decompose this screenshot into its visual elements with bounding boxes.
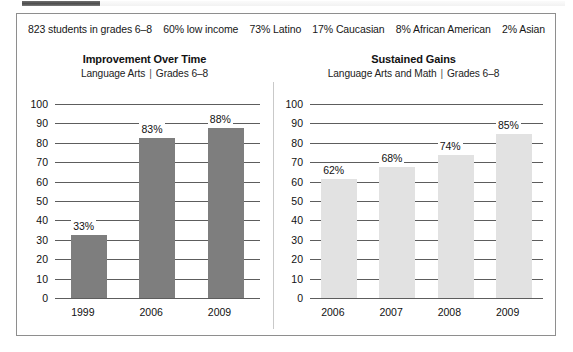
y-axis-label-right: 40 bbox=[291, 214, 303, 226]
demographic-low-income: 60% low income bbox=[163, 23, 238, 35]
y-axis-label-right: 10 bbox=[291, 273, 303, 285]
bar-group-right[interactable]: 62%2006 bbox=[310, 105, 368, 299]
bar-value-label: 68% bbox=[379, 152, 404, 164]
chart-title-right: Sustained Gains bbox=[272, 53, 555, 65]
x-axis-label-right: 2009 bbox=[496, 306, 519, 318]
demographic-enrollment: 823 students in grades 6–8 bbox=[28, 23, 152, 35]
chart-panel-sustained-gains: Sustained Gains Language Arts and Math|G… bbox=[272, 44, 555, 335]
demographic-caucasian: 17% Caucasian bbox=[312, 23, 384, 35]
bar-value-label: 83% bbox=[139, 123, 164, 135]
bar-left-2009[interactable]: 88%2009 bbox=[208, 128, 244, 299]
bar-value-label: 85% bbox=[496, 119, 521, 131]
plot-inner-left: 1009080706050403020100 33%199983%200688%… bbox=[55, 105, 260, 299]
x-axis-label-right: 2006 bbox=[321, 306, 344, 318]
bar-group-right[interactable]: 74%2008 bbox=[427, 105, 485, 299]
bar-right-2009[interactable]: 85%2009 bbox=[496, 134, 532, 299]
y-axis-label-right: 30 bbox=[291, 234, 303, 246]
bars-right: 62%200668%200774%200885%2009 bbox=[310, 105, 543, 299]
bar-group-left[interactable]: 83%2006 bbox=[123, 105, 191, 299]
demographics-row: 823 students in grades 6–8 60% low incom… bbox=[17, 14, 555, 44]
bar-left-1999[interactable]: 33%1999 bbox=[71, 235, 107, 299]
y-axis-label-left: 80 bbox=[36, 137, 48, 149]
chart-title-left: Improvement Over Time bbox=[17, 53, 272, 65]
screenshot-root: 823 students in grades 6–8 60% low incom… bbox=[0, 0, 573, 352]
chart-panel-improvement-over-time: Improvement Over Time Language Arts|Grad… bbox=[17, 44, 272, 335]
plot-area-left: 1009080706050403020100 33%199983%200688%… bbox=[17, 99, 266, 327]
x-axis-label-left: 1999 bbox=[71, 306, 94, 318]
y-axis-label-left: 90 bbox=[36, 117, 48, 129]
data-card: 823 students in grades 6–8 60% low incom… bbox=[16, 13, 556, 336]
y-axis-label-right: 80 bbox=[291, 137, 303, 149]
subtitle-separator-right: | bbox=[437, 68, 448, 79]
chart-subtitle-subject-left: Language Arts bbox=[81, 68, 145, 79]
bar-right-2008[interactable]: 74%2008 bbox=[438, 155, 474, 299]
subtitle-separator-left: | bbox=[145, 68, 156, 79]
bar-value-label: 74% bbox=[438, 140, 463, 152]
chart-subtitle-grades-right: Grades 6–8 bbox=[447, 68, 499, 79]
y-axis-label-right: 100 bbox=[285, 98, 303, 110]
bar-value-label: 88% bbox=[208, 113, 233, 125]
y-axis-label-right: 70 bbox=[291, 156, 303, 168]
bar-group-left[interactable]: 88%2009 bbox=[192, 105, 260, 299]
x-axis-label-left: 2009 bbox=[208, 306, 231, 318]
y-axis-label-left: 30 bbox=[36, 234, 48, 246]
bar-value-label: 33% bbox=[71, 220, 96, 232]
bar-left-2006[interactable]: 83%2006 bbox=[139, 138, 175, 299]
header-accent-bar-tail bbox=[100, 1, 565, 6]
chart-subtitle-right: Language Arts and Math|Grades 6–8 bbox=[272, 68, 555, 79]
header-accent-bar bbox=[22, 1, 100, 6]
x-axis-left bbox=[55, 298, 260, 299]
y-axis-label-left: 60 bbox=[36, 176, 48, 188]
y-axis-label-left: 10 bbox=[36, 273, 48, 285]
chart-subtitle-left: Language Arts|Grades 6–8 bbox=[17, 68, 272, 79]
plot-inner-right: 1009080706050403020100 62%200668%200774%… bbox=[310, 105, 543, 299]
y-axis-label-right: 90 bbox=[291, 117, 303, 129]
x-axis-label-left: 2006 bbox=[139, 306, 162, 318]
bar-value-label: 62% bbox=[321, 164, 346, 176]
plot-area-right: 1009080706050403020100 62%200668%200774%… bbox=[272, 99, 549, 327]
y-axis-label-left: 100 bbox=[30, 98, 48, 110]
bar-group-left[interactable]: 33%1999 bbox=[55, 105, 123, 299]
x-axis-label-right: 2007 bbox=[379, 306, 402, 318]
y-axis-label-left: 70 bbox=[36, 156, 48, 168]
demographic-asian: 2% Asian bbox=[502, 23, 545, 35]
bar-group-right[interactable]: 85%2009 bbox=[485, 105, 543, 299]
y-axis-label-right: 20 bbox=[291, 253, 303, 265]
y-axis-label-right: 60 bbox=[291, 176, 303, 188]
chart-subtitle-grades-left: Grades 6–8 bbox=[156, 68, 208, 79]
x-axis-label-right: 2008 bbox=[438, 306, 461, 318]
y-axis-label-left: 40 bbox=[36, 214, 48, 226]
charts-container: Improvement Over Time Language Arts|Grad… bbox=[17, 44, 555, 335]
demographic-african-american: 8% African American bbox=[396, 23, 491, 35]
x-axis-right bbox=[310, 298, 543, 299]
y-axis-label-right: 0 bbox=[297, 292, 303, 304]
y-axis-label-left: 50 bbox=[36, 195, 48, 207]
y-axis-label-left: 20 bbox=[36, 253, 48, 265]
y-axis-label-left: 0 bbox=[42, 292, 48, 304]
bar-group-right[interactable]: 68%2007 bbox=[368, 105, 426, 299]
bar-right-2007[interactable]: 68%2007 bbox=[379, 167, 415, 299]
chart-subtitle-subject-right: Language Arts and Math bbox=[328, 68, 437, 79]
bar-right-2006[interactable]: 62%2006 bbox=[321, 179, 357, 299]
bars-left: 33%199983%200688%2009 bbox=[55, 105, 260, 299]
demographic-latino: 73% Latino bbox=[250, 23, 302, 35]
y-axis-label-right: 50 bbox=[291, 195, 303, 207]
